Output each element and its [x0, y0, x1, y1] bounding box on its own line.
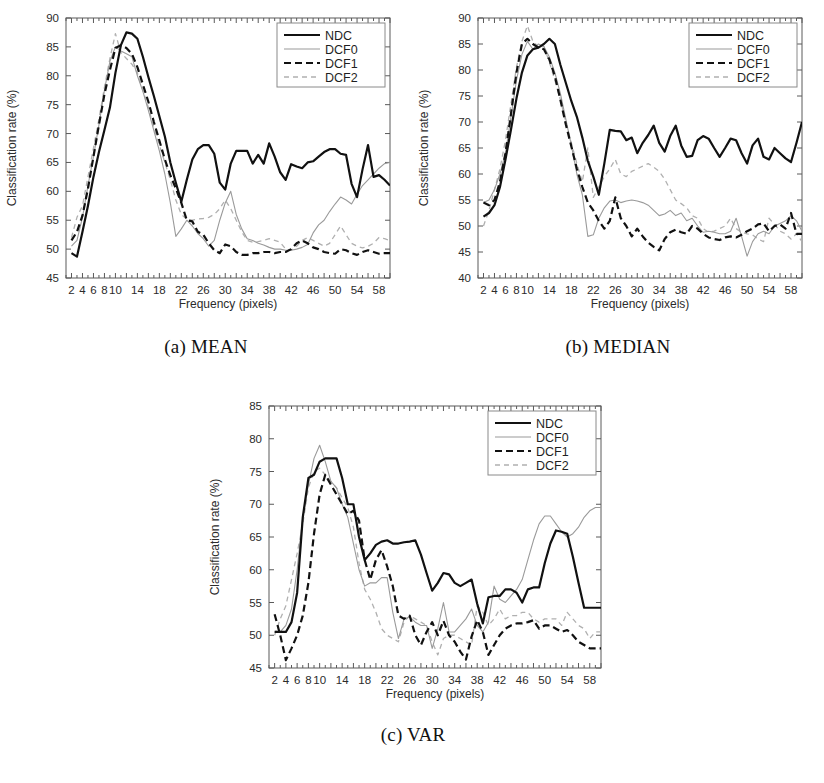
y-tick-label: 90 [46, 12, 59, 24]
y-tick-label: 45 [249, 662, 262, 674]
x-tick-label: 58 [373, 284, 386, 296]
x-tick-label: 50 [538, 674, 551, 686]
x-tick-label: 22 [381, 674, 394, 686]
y-tick-label: 65 [458, 142, 471, 154]
x-tick-label: 26 [403, 674, 416, 686]
legend-label-ndc: NDC [536, 417, 563, 431]
x-tick-label: 18 [153, 284, 166, 296]
y-tick-label: 60 [46, 185, 59, 197]
legend-label-dcf2: DCF2 [325, 71, 358, 85]
y-tick-label: 70 [46, 128, 59, 140]
x-tick-label: 8 [101, 284, 107, 296]
y-tick-label: 55 [249, 597, 262, 609]
x-tick-label: 2 [68, 284, 74, 296]
legend: NDCDCF0DCF1DCF2 [277, 23, 385, 87]
panel-var: 4550556065707580852468101418222630343842… [203, 392, 623, 780]
x-tick-label: 14 [131, 284, 144, 296]
x-axis-title: Frequency (pixels) [179, 297, 278, 311]
y-tick-label: 50 [458, 220, 471, 232]
y-tick-label: 90 [458, 12, 471, 24]
x-tick-label: 2 [480, 284, 486, 296]
x-tick-label: 34 [653, 284, 666, 296]
legend-label-ndc: NDC [737, 29, 764, 43]
x-tick-label: 34 [448, 674, 461, 686]
legend-label-dcf2: DCF2 [737, 71, 770, 85]
chart-median: 4045505560657075808590246810141822263034… [412, 4, 824, 334]
x-tick-label: 14 [543, 284, 556, 296]
x-tick-label: 46 [307, 284, 320, 296]
y-axis-title: Classification rate (%) [208, 479, 222, 596]
x-tick-label: 10 [313, 674, 326, 686]
panel-mean: 4550556065707580859024681014182226303438… [0, 4, 412, 389]
legend-label-ndc: NDC [325, 29, 352, 43]
y-tick-label: 80 [458, 64, 471, 76]
x-tick-label: 26 [609, 284, 622, 296]
y-tick-label: 45 [458, 246, 471, 258]
x-tick-label: 8 [513, 284, 519, 296]
legend-label-dcf1: DCF1 [325, 57, 358, 71]
x-tick-label: 54 [561, 674, 574, 686]
y-tick-label: 55 [458, 194, 471, 206]
x-tick-label: 22 [587, 284, 600, 296]
x-tick-label: 4 [79, 284, 86, 296]
x-tick-label: 54 [763, 284, 776, 296]
x-tick-label: 58 [785, 284, 798, 296]
y-tick-label: 70 [249, 498, 262, 510]
legend-label-dcf0: DCF0 [325, 43, 358, 57]
x-tick-label: 10 [521, 284, 534, 296]
x-tick-label: 6 [90, 284, 96, 296]
y-tick-label: 85 [458, 38, 471, 50]
legend-label-dcf2: DCF2 [536, 459, 569, 473]
y-tick-label: 70 [458, 116, 471, 128]
x-tick-label: 18 [358, 674, 371, 686]
x-tick-label: 54 [351, 284, 364, 296]
x-tick-label: 4 [283, 674, 290, 686]
y-tick-label: 60 [458, 168, 471, 180]
figure-container: 4550556065707580859024681014182226303438… [0, 0, 824, 783]
x-tick-label: 38 [263, 284, 276, 296]
x-tick-label: 8 [305, 674, 311, 686]
x-tick-label: 14 [336, 674, 349, 686]
x-tick-label: 42 [285, 284, 298, 296]
x-axis-title: Frequency (pixels) [386, 687, 485, 701]
legend-label-dcf0: DCF0 [536, 431, 569, 445]
x-tick-label: 18 [565, 284, 578, 296]
x-tick-label: 38 [675, 284, 688, 296]
legend-label-dcf1: DCF1 [737, 57, 770, 71]
caption-var: (c) VAR [203, 724, 623, 746]
chart-var: 4550556065707580852468101418222630343842… [203, 392, 623, 722]
y-axis-title: Classification rate (%) [5, 90, 19, 207]
x-tick-label: 42 [697, 284, 710, 296]
y-tick-label: 65 [249, 531, 262, 543]
x-tick-label: 6 [502, 284, 508, 296]
y-tick-label: 65 [46, 156, 59, 168]
chart-svg-a: 4550556065707580859024681014182226303438… [0, 4, 412, 334]
x-tick-label: 50 [329, 284, 342, 296]
x-tick-label: 50 [741, 284, 754, 296]
x-tick-label: 30 [631, 284, 644, 296]
legend: NDCDCF0DCF1DCF2 [689, 23, 797, 87]
y-tick-label: 85 [46, 41, 59, 53]
y-tick-label: 60 [249, 564, 262, 576]
y-tick-label: 55 [46, 214, 59, 226]
x-tick-label: 22 [175, 284, 188, 296]
legend: NDCDCF0DCF1DCF2 [488, 411, 596, 475]
legend-label-dcf0: DCF0 [737, 43, 770, 57]
x-tick-label: 46 [719, 284, 732, 296]
x-tick-label: 2 [271, 674, 277, 686]
chart-mean: 4550556065707580859024681014182226303438… [0, 4, 412, 334]
x-tick-label: 34 [241, 284, 254, 296]
x-tick-label: 42 [493, 674, 506, 686]
y-tick-label: 40 [458, 272, 471, 284]
y-tick-label: 50 [46, 243, 59, 255]
x-tick-label: 46 [516, 674, 529, 686]
y-axis-title: Classification rate (%) [417, 90, 431, 207]
x-tick-label: 26 [197, 284, 210, 296]
legend-label-dcf1: DCF1 [536, 445, 569, 459]
y-tick-label: 85 [249, 400, 262, 412]
y-tick-label: 45 [46, 272, 59, 284]
y-tick-label: 80 [46, 70, 59, 82]
x-axis-title: Frequency (pixels) [591, 297, 690, 311]
chart-svg-b: 4045505560657075808590246810141822263034… [412, 4, 824, 334]
y-tick-label: 50 [249, 629, 262, 641]
